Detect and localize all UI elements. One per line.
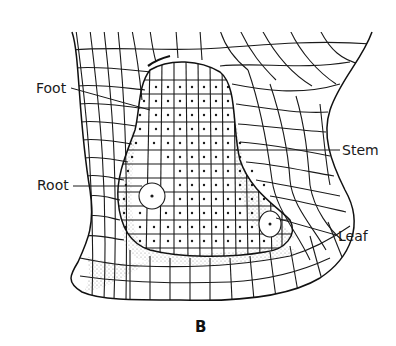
panel-label: B [195,318,206,336]
label-foot: Foot [36,80,150,110]
embryo [116,56,292,260]
label-root-text: Root [37,177,69,193]
embryo-section-diagram: Foot Stem Root Leaf B [0,0,396,346]
outer-tissue [72,30,372,300]
label-leaf-text: Leaf [338,228,369,244]
label-stem-text: Stem [342,142,379,158]
label-foot-text: Foot [36,80,67,96]
